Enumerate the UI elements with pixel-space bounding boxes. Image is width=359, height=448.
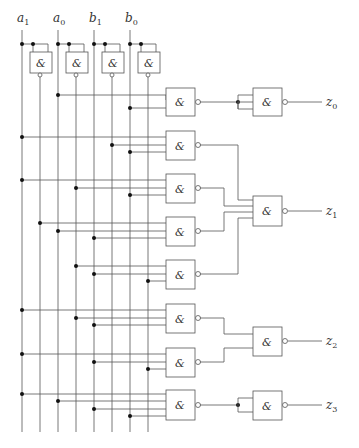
inverter-b1: & bbox=[92, 42, 124, 77]
input-label-a0: a0 bbox=[53, 11, 65, 27]
output-label-z1: z1 bbox=[325, 204, 337, 220]
input-label-a1: a1 bbox=[17, 11, 29, 27]
svg-text:&: & bbox=[262, 336, 272, 349]
nand-gate-6: & bbox=[20, 304, 201, 333]
nand-gate-1: & bbox=[56, 88, 201, 116]
svg-text:&: & bbox=[36, 57, 46, 70]
output-label-z2: z2 bbox=[325, 334, 337, 350]
output-gate-z1: & bbox=[200, 145, 322, 274]
nand-gate-4: & bbox=[38, 217, 201, 246]
svg-text:&: & bbox=[108, 57, 118, 70]
output-label-z0: z0 bbox=[325, 95, 337, 111]
nand-gate-5: & bbox=[74, 260, 201, 289]
output-gates: & & & bbox=[200, 88, 322, 420]
svg-text:&: & bbox=[175, 399, 185, 412]
inverter-a0: & bbox=[56, 42, 88, 77]
nand-gate-3: & bbox=[20, 174, 201, 203]
svg-text:&: & bbox=[72, 57, 82, 70]
svg-text:&: & bbox=[175, 226, 185, 239]
input-label-b0: b0 bbox=[125, 11, 138, 27]
first-level-gates: & & & bbox=[20, 88, 201, 420]
logic-circuit-diagram: a1 a0 b1 b0 & & bbox=[0, 0, 359, 448]
output-gate-z3: & bbox=[200, 391, 322, 420]
output-label-z3: z3 bbox=[325, 398, 337, 414]
output-gate-z2: & bbox=[200, 318, 322, 362]
input-label-b1: b1 bbox=[89, 11, 102, 27]
nand-gate-2: & bbox=[20, 131, 201, 160]
output-labels: z0 z1 z2 z3 bbox=[325, 95, 337, 414]
inverter-gates: & & & & bbox=[20, 42, 160, 77]
svg-text:&: & bbox=[262, 205, 272, 218]
svg-text:&: & bbox=[175, 357, 185, 370]
nand-gate-8: & bbox=[20, 390, 201, 420]
svg-text:&: & bbox=[175, 96, 185, 109]
svg-text:&: & bbox=[262, 400, 272, 413]
svg-text:&: & bbox=[175, 183, 185, 196]
svg-text:&: & bbox=[175, 269, 185, 282]
svg-text:&: & bbox=[144, 57, 154, 70]
inverter-a1: & bbox=[20, 42, 52, 77]
svg-text:&: & bbox=[262, 96, 272, 109]
inverter-b0: & bbox=[128, 42, 160, 77]
input-labels: a1 a0 b1 b0 bbox=[17, 11, 138, 27]
output-gate-z0: & bbox=[200, 88, 322, 116]
svg-text:&: & bbox=[175, 140, 185, 153]
nand-gate-7: & bbox=[20, 348, 201, 377]
svg-text:&: & bbox=[175, 313, 185, 326]
